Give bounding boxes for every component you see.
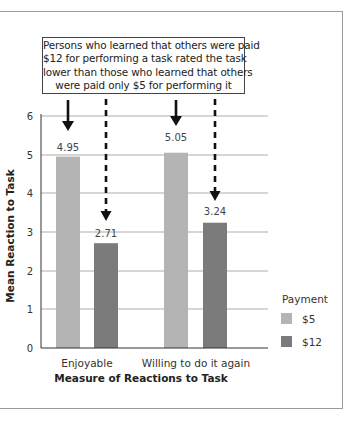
value-label-enjoyable-5: 4.95: [57, 142, 79, 153]
bar-chart: 6 5 4 3 2 1 0 4.95 2.71 5.05 3.24 Enjoya…: [0, 0, 357, 425]
bar-willing-5: [164, 153, 188, 348]
y-tick-2: 2: [27, 266, 33, 277]
legend-title: Payment: [282, 293, 328, 305]
x-axis-title: Measure of Reactions to Task: [54, 372, 229, 384]
legend-swatch-12: [281, 336, 292, 347]
y-axis-title: Mean Reaction to Task: [4, 168, 16, 302]
legend: Payment $5 $12: [281, 293, 328, 348]
y-tick-3: 3: [27, 227, 33, 238]
y-tick-1: 1: [27, 304, 33, 315]
bar-enjoyable-5: [56, 157, 80, 348]
y-tick-6: 6: [27, 111, 33, 122]
y-tick-0: 0: [27, 343, 33, 354]
dashed-arrow-enjoyable: [101, 99, 112, 221]
y-tick-labels: 6 5 4 3 2 1 0: [27, 111, 33, 354]
value-label-willing-12: 3.24: [204, 206, 226, 217]
category-label-willing: Willing to do it again: [142, 357, 250, 369]
bars: [56, 153, 227, 348]
legend-swatch-5: [281, 313, 292, 324]
y-tick-5: 5: [27, 150, 33, 161]
legend-label-12: $12: [302, 336, 322, 348]
bar-willing-12: [203, 223, 227, 348]
bar-enjoyable-12: [94, 243, 118, 348]
category-label-enjoyable: Enjoyable: [61, 357, 112, 369]
legend-label-5: $5: [302, 313, 315, 325]
dashed-arrow-willing: [210, 99, 221, 201]
solid-arrow-willing: [170, 100, 182, 126]
value-label-willing-5: 5.05: [165, 132, 187, 143]
value-label-enjoyable-12: 2.71: [95, 228, 117, 239]
y-tick-4: 4: [27, 188, 33, 199]
